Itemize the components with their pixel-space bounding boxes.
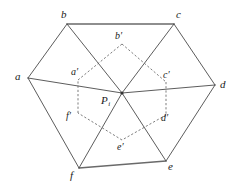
edge-e-f bbox=[79, 161, 166, 168]
edge-eprime-fprime bbox=[78, 113, 122, 140]
edge-dprime-eprime bbox=[122, 115, 166, 140]
edge-d-e bbox=[166, 85, 215, 161]
vertex-label-a: a bbox=[15, 71, 21, 82]
vertex-label-f-prime: f′ bbox=[66, 111, 71, 121]
spoke-b-center bbox=[67, 24, 122, 93]
center-label-subscript: i bbox=[108, 100, 110, 108]
hexagon-diagram-svg bbox=[0, 0, 238, 193]
vertex-label-e: e bbox=[168, 161, 173, 172]
center-dot bbox=[120, 91, 123, 94]
vertex-label-c: c bbox=[176, 9, 181, 20]
spoke-d-center bbox=[122, 85, 215, 93]
vertex-label-a-prime: a′ bbox=[71, 67, 78, 77]
center-label-main: P bbox=[101, 94, 108, 106]
edge-aprime-bprime bbox=[78, 44, 122, 80]
edge-a-b bbox=[28, 24, 67, 78]
edge-bprime-cprime bbox=[122, 44, 166, 82]
edge-f-a bbox=[28, 78, 79, 168]
vertex-label-c-prime: c′ bbox=[163, 70, 170, 80]
vertex-label-e-prime: e′ bbox=[117, 142, 124, 152]
figure-root: a b c d e f a′ b′ c′ d′ e′ f′ Pi bbox=[0, 0, 238, 193]
edge-c-d bbox=[174, 24, 215, 85]
vertex-label-f: f bbox=[70, 170, 73, 181]
center-point-label: Pi bbox=[101, 95, 110, 106]
spoke-e-center bbox=[122, 93, 166, 161]
vertex-label-b-prime: b′ bbox=[115, 31, 122, 41]
vertex-label-d: d bbox=[220, 79, 226, 90]
spoke-a-center bbox=[28, 78, 122, 93]
vertex-label-b: b bbox=[61, 9, 67, 20]
vertex-label-d-prime: d′ bbox=[161, 113, 168, 123]
